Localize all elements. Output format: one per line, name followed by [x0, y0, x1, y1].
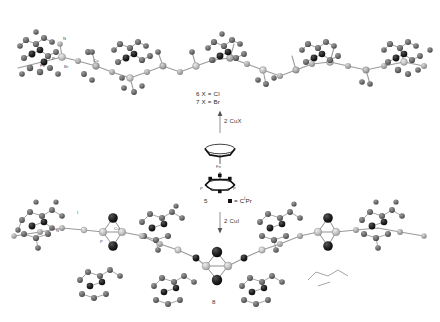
arrow-down-reagent-label: 2 CuI [224, 218, 239, 224]
atom-label-fe-top: Fe [40, 63, 45, 68]
compound-8-label: 8 [212, 298, 216, 305]
atom-label-p-left-center: P [200, 186, 203, 191]
arrow-up-reagent-label: 2 CuX [224, 118, 242, 124]
cu2i2-core-right [314, 213, 340, 251]
arrow-down-graphic [218, 212, 223, 234]
legend-suffix-pr: Pr [246, 197, 253, 204]
atom-label-cu-top: Cu [93, 58, 99, 63]
atom-label-p-bottom: P [100, 239, 103, 244]
bottom-polymer-structure [11, 199, 426, 307]
legend-square-icon [228, 199, 232, 203]
cu2i2-core-center [202, 247, 232, 285]
compound-5-label: 5 [204, 197, 208, 204]
atom-label-p-top: P [52, 56, 55, 61]
atom-label-i-bottom: I [77, 210, 78, 215]
atom-label-br-top: Br [64, 64, 69, 69]
reaction-scheme-figure: N P Fe Br Cu 6 X = Cl 7 X = Br 2 CuX Fe … [0, 0, 440, 322]
atom-label-cu-bottom: Cu [114, 226, 120, 231]
product-7-label: 7 X = Br [196, 98, 220, 105]
atom-label-n-top: N [63, 36, 66, 41]
legend-substituent: = CiPr [228, 196, 252, 204]
scheme-graphics [0, 0, 440, 322]
cu2i2-core-left [99, 213, 126, 251]
arrow-up-graphic [218, 111, 223, 134]
product-6-label: 6 X = Cl [196, 90, 220, 97]
atom-label-fe-center: Fe [216, 164, 221, 169]
legend-equals-c: = C [234, 197, 244, 204]
atom-label-n-bottom: N [56, 228, 59, 233]
top-atom-spheres [17, 29, 432, 95]
top-polymer-structure [17, 29, 432, 95]
atom-label-p-right-center: P [233, 186, 236, 191]
